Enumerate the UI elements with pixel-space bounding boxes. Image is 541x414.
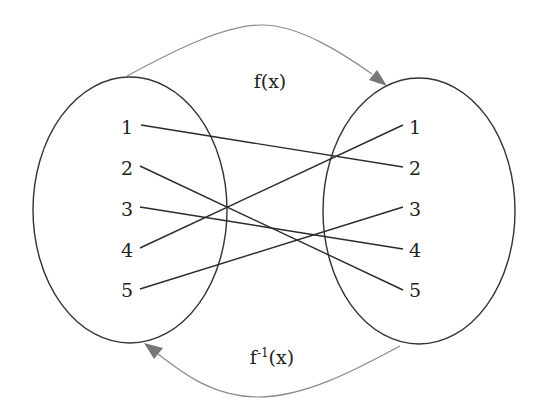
domain-element-2: 2 (121, 157, 133, 179)
domain-element-5: 5 (121, 279, 133, 301)
function-mapping-diagram: f(x) f-1(x) 1 2 3 4 5 1 2 3 4 5 (0, 0, 541, 414)
codomain-element-1: 1 (409, 116, 421, 138)
codomain-element-2: 2 (409, 157, 421, 179)
codomain-element-3: 3 (409, 198, 421, 220)
mapping-line-1-to-2 (141, 125, 403, 167)
codomain-element-5: 5 (409, 279, 421, 301)
mapping-lines (140, 125, 403, 290)
forward-function-label: f(x) (254, 70, 287, 92)
codomain-element-4: 4 (409, 239, 421, 261)
domain-element-4: 4 (121, 239, 133, 261)
codomain-labels: 1 2 3 4 5 (409, 116, 421, 301)
domain-element-1: 1 (121, 116, 133, 138)
domain-labels: 1 2 3 4 5 (121, 116, 133, 301)
forward-arrowhead-icon (369, 70, 387, 86)
domain-element-3: 3 (121, 198, 133, 220)
inverse-arrowhead-icon (144, 343, 163, 359)
inverse-function-label: f-1(x) (250, 346, 294, 368)
mapping-line-4-to-1 (140, 125, 403, 248)
mapping-line-5-to-3 (140, 207, 403, 289)
mapping-line-3-to-4 (140, 207, 403, 249)
